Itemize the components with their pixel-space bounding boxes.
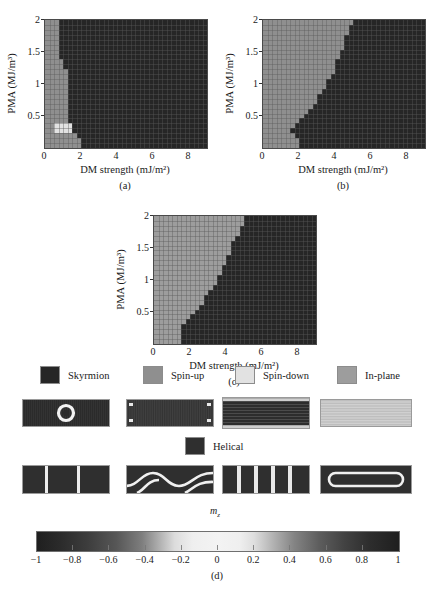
grid-line [263, 99, 425, 100]
panel-b-ytickmark-1 [259, 83, 262, 84]
grid-line [154, 236, 316, 237]
grid-line [154, 319, 316, 320]
grid-line [45, 54, 207, 55]
helical-texture-strip-2 [126, 465, 214, 494]
grid-line [263, 69, 425, 70]
colorbar-tickmark [72, 545, 73, 550]
grid-line [154, 329, 316, 330]
panel-a-ytickmark-0.5 [41, 115, 44, 116]
grid-line [45, 143, 207, 144]
grid-line [45, 35, 207, 36]
grid-line [45, 25, 207, 26]
panel-a-ytick-1: 1 [18, 78, 40, 89]
panel-b-ytick-1.5: 1.5 [236, 46, 258, 57]
legend-label-skyrmion: Skyrmion [68, 370, 109, 381]
panel-d-letter: (d) [197, 570, 237, 581]
panel-c-xtick-0: 0 [143, 346, 163, 357]
panel-b-ytick-1: 1 [236, 78, 258, 89]
grid-line [154, 314, 316, 315]
panel-c-ytick-0.5: 0.5 [127, 306, 149, 317]
colorbar-tick-label: 1 [383, 554, 413, 565]
panel-a-ytickmark-1.5 [41, 51, 44, 52]
grid-line [263, 138, 425, 139]
panel-b-xtick-2: 2 [288, 150, 308, 161]
grid-line [45, 99, 207, 100]
grid-line [154, 334, 316, 335]
panel-a-xtick-6: 6 [142, 150, 162, 161]
grid-line [45, 138, 207, 139]
grid-line [263, 104, 425, 105]
grid-line [45, 59, 207, 60]
legend-swatch-spin-down [235, 366, 255, 384]
panel-c-ytickmark-1 [150, 279, 153, 280]
colorbar-tick-label: −0.4 [130, 554, 160, 565]
grid-line [154, 265, 316, 266]
legend-row-secondary: Helical [0, 437, 434, 457]
panel-c-ytickmark-1.5 [150, 247, 153, 248]
panel-c-ytick-1: 1 [127, 274, 149, 285]
colorbar-tick-label: 0.2 [238, 554, 268, 565]
grid-line [263, 54, 425, 55]
grid-line [154, 290, 316, 291]
legend-label-spin-down: Spin-down [263, 370, 309, 381]
colorbar-tick-label: −0.8 [57, 554, 87, 565]
in-plane-texture-strip [320, 399, 412, 427]
grid-line [45, 84, 207, 85]
grid-line [154, 300, 316, 301]
grid-line [263, 30, 425, 31]
colorbar-tick-label: 0.4 [274, 554, 304, 565]
grid-line [263, 89, 425, 90]
panel-a-xtick-8: 8 [178, 150, 198, 161]
panel-c-xtick-6: 6 [251, 346, 271, 357]
panel-a-ytickmark-1 [41, 83, 44, 84]
grid-line [263, 35, 425, 36]
grid-line [263, 50, 425, 51]
colorbar-tickmark [326, 545, 327, 550]
grid-line [263, 109, 425, 110]
grid-line [45, 94, 207, 95]
grid-line [45, 109, 207, 110]
grid-line [263, 118, 425, 119]
grid-line [154, 226, 316, 227]
grid-line [45, 133, 207, 134]
panel-b-xtick-6: 6 [360, 150, 380, 161]
panel-b-ytick-0.5: 0.5 [236, 110, 258, 121]
helical-texture-strip-3 [222, 465, 310, 494]
panel-a-xtick-4: 4 [106, 150, 126, 161]
grid-line [154, 280, 316, 281]
legend-item-in-plane: In-plane [337, 366, 400, 384]
panel-b-xtick-0: 0 [252, 150, 272, 161]
colorbar-tick-label: −1 [21, 554, 51, 565]
panel-b-plot-area [262, 19, 426, 149]
colorbar-tickmark [362, 545, 363, 550]
grid-line [154, 324, 316, 325]
colorbar-tickmark [181, 545, 182, 550]
grid-line [263, 128, 425, 129]
grid-line [263, 25, 425, 26]
skyrmion-texture-strip [22, 399, 110, 427]
panel-b-ytickmark-0.5 [259, 115, 262, 116]
panel-c-ytick-1.5: 1.5 [127, 242, 149, 253]
grid-line [45, 79, 207, 80]
panel-a-xtick-0: 0 [34, 150, 54, 161]
panel-b-xtick-8: 8 [396, 150, 416, 161]
legend-label-spin-up: Spin-up [171, 370, 204, 381]
grid-line [263, 64, 425, 65]
colorbar-tickmark [289, 545, 290, 550]
grid-line [45, 64, 207, 65]
legend-item-spin-up: Spin-up [143, 366, 204, 384]
grid-line [263, 123, 425, 124]
colorbar-tickmark [217, 545, 218, 550]
colorbar-tick-label: −0.2 [166, 554, 196, 565]
grid-line [45, 123, 207, 124]
spin-up-texture-strip [126, 399, 214, 427]
grid-line [154, 241, 316, 242]
grid-line [45, 104, 207, 105]
legend-swatch-spin-up [143, 366, 163, 384]
grid-line [45, 118, 207, 119]
grid-line [154, 231, 316, 232]
panel-a-x-axis-label: DM strength (mJ/m²) [45, 164, 205, 175]
grid-line [263, 133, 425, 134]
grid-line [45, 89, 207, 90]
helical-texture-strip-4 [320, 465, 412, 494]
